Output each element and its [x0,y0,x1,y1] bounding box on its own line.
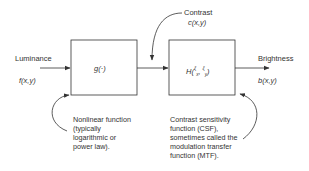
annotation-line: Nonlinear function [73,115,131,124]
contrast-arrow [152,13,182,60]
annotation-line: Contrast sensitivity [170,115,238,124]
annotation-line: function (CSF), [170,124,238,133]
luminance-symbol: f(x,y) [19,76,36,85]
contrast-label: Contrast [184,8,212,17]
csf-annotation-arrow [240,94,257,139]
csf-annotation: Contrast sensitivity function (CSF), som… [170,115,238,160]
annotation-line: logarithmic or [73,133,131,142]
diagram-canvas [0,0,309,171]
brightness-symbol: b(x,y) [258,76,277,85]
brightness-label: Brightness [258,54,293,63]
annotation-line: power law). [73,142,131,151]
contrast-symbol: c(x,y) [188,18,206,27]
nonlinear-annotation: Nonlinear function (typically logarithmi… [73,115,131,151]
block-h-label: H(ξx, ξy) [186,64,210,79]
annotation-line: (typically [73,124,131,133]
annotation-line: sometimes called the [170,133,238,142]
annotation-line: modulation transfer [170,142,238,151]
luminance-label: Luminance [15,54,52,63]
annotation-line: function (MTF). [170,151,238,160]
block-g-label: g(·) [94,64,106,73]
nonlinear-annotation-arrow [52,95,69,131]
